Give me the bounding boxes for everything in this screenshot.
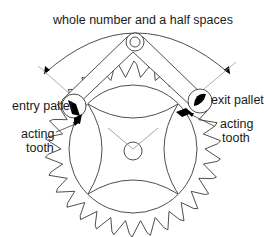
span-label: whole number and a half spaces — [52, 13, 233, 27]
entry-tooth-label: tooth — [26, 141, 54, 155]
exit-tooth-label: tooth — [222, 131, 250, 145]
entry-acting-label: acting — [21, 127, 54, 141]
entry-pallet-label: entry pallet — [12, 99, 74, 113]
arrow-left-icon — [44, 66, 50, 74]
exit-acting-label: acting — [220, 117, 253, 131]
escapement-diagram: whole number and a half spaces entry pal… — [0, 0, 264, 237]
exit-pallet-label: exit pallet — [211, 93, 264, 107]
